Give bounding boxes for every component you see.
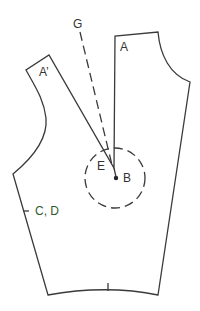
pivot-line-g	[80, 32, 112, 165]
bodice-pattern-diagram: G A A’ E B C, D	[0, 0, 200, 311]
label-g: G	[73, 17, 82, 31]
label-b: B	[123, 171, 131, 185]
label-cd: C, D	[35, 204, 59, 218]
label-a: A	[120, 40, 128, 54]
apex-to-b	[114, 168, 116, 177]
label-e: E	[97, 159, 105, 173]
label-a-prime: A’	[39, 65, 49, 79]
